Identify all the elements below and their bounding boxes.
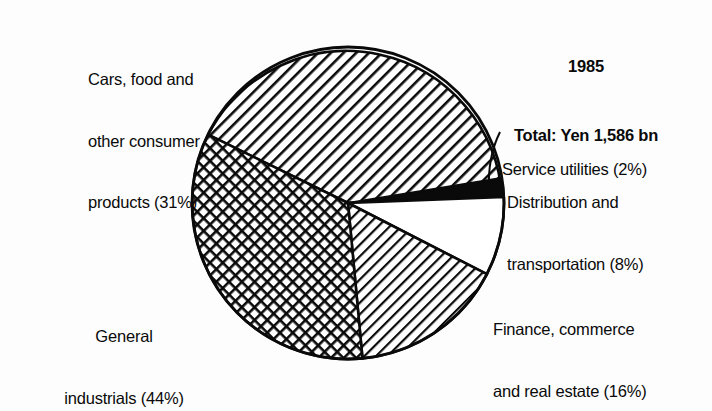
slice-label-consumer-products: Cars, food and other consumer products (… [88,28,200,254]
slice-label-distribution-transportation-line1: Distribution and [507,192,644,213]
slice-label-general-industrials-line2: industrials (44%) [12,388,236,409]
chart-title-year: 1985 [466,55,706,78]
slice-label-distribution-transportation-line2: transportation (8%) [507,254,644,275]
slice-label-general-industrials-line1: General [12,326,236,347]
slice-label-finance-commerce-real-estate: Finance, commerce and real estate (16%) [493,278,647,411]
slice-label-finance-commerce-real-estate-line1: Finance, commerce [493,319,647,340]
slice-label-finance-commerce-real-estate-line2: and real estate (16%) [493,381,647,402]
slice-label-consumer-products-line3: products (31%) [88,192,200,213]
slice-label-consumer-products-line2: other consumer [88,131,200,152]
slice-label-general-industrials: General industrials (44%) [12,285,236,411]
slice-label-consumer-products-line1: Cars, food and [88,69,200,90]
